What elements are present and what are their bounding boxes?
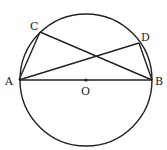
center-point-o bbox=[84, 78, 87, 81]
chord-ac bbox=[19, 32, 40, 80]
label-a: A bbox=[4, 75, 14, 88]
label-o: O bbox=[81, 85, 90, 98]
label-b: B bbox=[155, 75, 163, 88]
label-d: D bbox=[141, 31, 150, 44]
label-c: C bbox=[30, 20, 38, 33]
geometry-diagram: A B C D O bbox=[0, 0, 167, 150]
